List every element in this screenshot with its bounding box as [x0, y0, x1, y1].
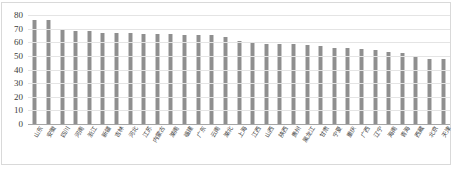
- x-axis-tick-label: 辽宁: [373, 125, 385, 139]
- x-axis-tick-label: 山西: [264, 125, 276, 139]
- y-axis: 01020304050607080: [0, 10, 26, 130]
- gridline: [28, 110, 450, 111]
- bar: [32, 20, 37, 124]
- gridline: [28, 56, 450, 57]
- bar: [427, 59, 432, 124]
- x-axis-tick-label: 北京: [427, 125, 439, 139]
- x-axis-tick-label: 甘肃: [318, 125, 330, 139]
- y-axis-tick-label: 60: [14, 38, 23, 47]
- x-axis-tick-label: 河南: [73, 125, 85, 139]
- bar: [441, 59, 446, 124]
- x-axis-tick-label: 广东: [196, 125, 208, 139]
- x-axis-tick-label: 青海: [400, 125, 412, 139]
- bar: [359, 49, 364, 124]
- y-axis-tick-label: 80: [14, 11, 23, 20]
- bar: [413, 56, 418, 124]
- gridline: [28, 15, 450, 16]
- y-axis-tick-label: 30: [14, 79, 23, 88]
- bar: [373, 50, 378, 124]
- y-axis-tick-label: 40: [14, 66, 23, 75]
- x-axis-tick-label: 云南: [209, 125, 221, 139]
- x-axis-tick-label: 河北: [128, 125, 140, 139]
- x-axis-tick-label: 浙江: [87, 125, 99, 139]
- x-axis-tick-label: 四川: [60, 125, 72, 139]
- x-axis-tick-label: 内蒙古: [152, 125, 167, 144]
- y-axis-tick-label: 20: [14, 93, 23, 102]
- bar: [46, 20, 51, 124]
- y-axis-tick-label: 0: [19, 120, 24, 129]
- x-axis-tick-label: 新疆: [101, 125, 113, 139]
- bar: [318, 46, 323, 124]
- x-axis-tick-label: 福建: [182, 125, 194, 139]
- bar: [332, 48, 337, 124]
- x-axis-tick-label: 安徽: [46, 125, 58, 139]
- bar-chart: 01020304050607080 山东安徽四川河南浙江新疆吉林河北江苏内蒙古湖…: [0, 0, 454, 169]
- x-axis-tick-label: 湖北: [223, 125, 235, 139]
- gridline: [28, 42, 450, 43]
- x-axis-tick-label: 江西: [250, 125, 262, 139]
- x-axis-tick-label: 重庆: [346, 125, 358, 139]
- x-axis-tick-label: 西藏: [414, 125, 426, 139]
- y-axis-tick-label: 10: [14, 106, 23, 115]
- x-axis-tick-label: 黑龙江: [302, 125, 317, 144]
- gridline: [28, 97, 450, 98]
- x-axis-tick-label: 广西: [359, 125, 371, 139]
- x-axis-labels: 山东安徽四川河南浙江新疆吉林河北江苏内蒙古湖南福建广东云南湖北上海江西山西陕西贵…: [28, 125, 450, 169]
- x-axis-tick-label: 吉林: [114, 125, 126, 139]
- bar: [386, 52, 391, 124]
- gridline: [28, 124, 450, 125]
- gridline: [28, 83, 450, 84]
- x-axis-tick-label: 山东: [32, 125, 44, 139]
- y-axis-tick-label: 70: [14, 25, 23, 34]
- x-axis-tick-label: 宁夏: [332, 125, 344, 139]
- gridline: [28, 29, 450, 30]
- x-axis-tick-label: 湖南: [169, 125, 181, 139]
- bar: [400, 53, 405, 124]
- y-axis-tick-label: 50: [14, 52, 23, 61]
- x-axis-tick-label: 海南: [386, 125, 398, 139]
- x-axis-tick-label: 陕西: [277, 125, 289, 139]
- x-axis-tick-label: 上海: [237, 125, 249, 139]
- bar: [345, 48, 350, 124]
- gridline: [28, 70, 450, 71]
